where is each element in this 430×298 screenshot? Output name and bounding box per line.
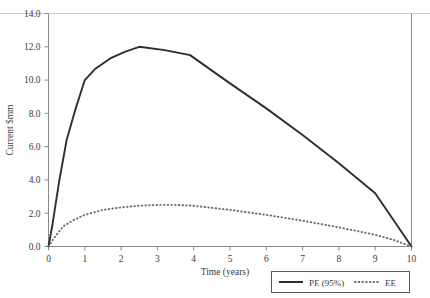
x-tick-label: 10 <box>407 254 417 264</box>
y-tick-label: 6.0 <box>29 142 41 152</box>
y-tick-label: 10.0 <box>24 75 41 85</box>
x-tick-label: 2 <box>119 254 124 264</box>
x-tick-label: 4 <box>191 254 196 264</box>
x-tick-label: 1 <box>82 254 87 264</box>
chart-canvas: 0.02.04.06.08.010.012.014.0 012345678910… <box>0 0 430 298</box>
y-tick-label: 0.0 <box>29 242 41 252</box>
y-tick-label: 14.0 <box>24 9 41 19</box>
series-line-ee <box>49 205 412 247</box>
x-axis-title: Time (years) <box>201 267 249 278</box>
x-axis: 012345678910 <box>46 247 416 264</box>
y-axis: 0.02.04.06.08.010.012.014.0 <box>24 9 49 252</box>
y-tick-label: 12.0 <box>24 42 41 52</box>
x-tick-label: 9 <box>373 254 378 264</box>
legend-label-pe: PE (95%) <box>309 278 344 288</box>
x-tick-label: 7 <box>300 254 305 264</box>
x-tick-label: 0 <box>46 254 51 264</box>
y-tick-label: 2.0 <box>29 209 41 219</box>
chart-legend[interactable]: PE (95%) EE <box>272 272 410 293</box>
x-tick-label: 8 <box>337 254 342 264</box>
y-tick-label: 4.0 <box>29 175 41 185</box>
x-tick-label: 3 <box>155 254 160 264</box>
y-axis-title: Current $mm <box>5 104 15 156</box>
series-line-pe <box>49 47 412 247</box>
y-tick-label: 8.0 <box>29 109 41 119</box>
x-tick-label: 5 <box>228 254 233 264</box>
x-tick-label: 6 <box>264 254 269 264</box>
exposure-profile-chart: 0.02.04.06.08.010.012.014.0 012345678910… <box>0 0 430 298</box>
legend-label-ee: EE <box>385 278 396 288</box>
